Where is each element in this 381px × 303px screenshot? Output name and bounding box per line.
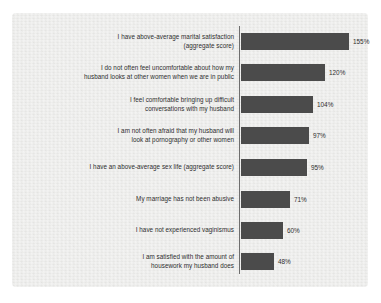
bar-row-label: I feel comfortable bringing up difficult… (26, 96, 234, 113)
bar-value-label: 95% (311, 159, 324, 176)
bar-value-label: 120% (329, 64, 345, 81)
plot-area: I have above-average marital satisfactio… (12, 13, 368, 287)
bar-row-label: My marriage has not been abusive (26, 195, 234, 204)
bar-value-label: 60% (287, 222, 300, 239)
bar-row-label: I have an above-average sex life (aggreg… (26, 163, 234, 172)
bar-value-label: 97% (313, 127, 326, 144)
bar-value-label: 104% (317, 96, 333, 113)
bar (241, 191, 290, 208)
chart-panel: I have above-average marital satisfactio… (12, 13, 368, 287)
bar (241, 159, 307, 176)
bar-row-label: I have not experienced vaginismus (26, 226, 234, 235)
bar-row-label: I am not often afraid that my husband wi… (26, 127, 234, 144)
bar (241, 222, 283, 239)
bar (241, 253, 274, 270)
bar-row-label: I am satisfied with the amount of housew… (26, 253, 234, 270)
bar (241, 96, 313, 113)
bar (241, 64, 325, 81)
bar (241, 33, 349, 50)
bar-value-label: 155% (353, 33, 369, 50)
bar-value-label: 71% (294, 191, 307, 208)
bar-value-label: 48% (278, 253, 291, 270)
category-axis-line (239, 26, 240, 274)
bar-row-label: I do not often feel uncomfortable about … (26, 64, 234, 81)
bar (241, 127, 309, 144)
bar-row-label: I have above-average marital satisfactio… (26, 33, 234, 50)
